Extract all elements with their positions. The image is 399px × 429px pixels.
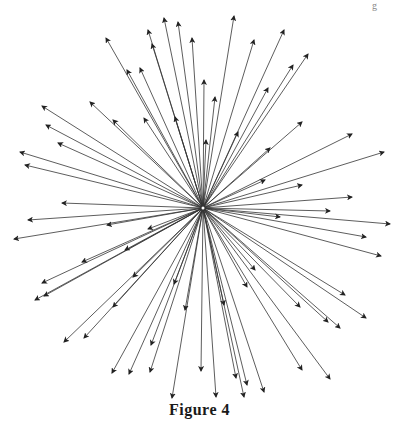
arrow-vector [82, 208, 203, 262]
arrow-vector [90, 102, 203, 208]
arrow-vector [203, 208, 302, 370]
arrow-vector [203, 134, 352, 208]
arrow-vector [203, 208, 366, 318]
arrow-vector [42, 106, 203, 208]
arrow-vector [203, 132, 238, 208]
arrow-vector [203, 152, 384, 208]
arrow-vector [203, 208, 330, 379]
arrow-vector [203, 54, 308, 208]
origin-point [202, 207, 205, 210]
arrow-vector [25, 165, 203, 208]
arrow-vector [62, 203, 203, 208]
arrow-vector [203, 208, 345, 295]
arrow-vector [203, 65, 293, 208]
arrow-vector [203, 40, 254, 208]
arrow-vector [129, 208, 203, 374]
arrow-vector [203, 208, 340, 328]
corner-page-mark: g [372, 0, 377, 11]
arrow-vector [127, 70, 203, 208]
radial-arrow-diagram [0, 0, 399, 400]
figure-caption: Figure 4 [0, 401, 399, 419]
arrow-vector [203, 148, 270, 208]
arrow-vector [201, 208, 203, 371]
